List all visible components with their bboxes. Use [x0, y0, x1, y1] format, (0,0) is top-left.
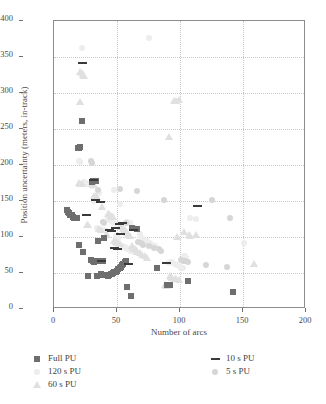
- y-tick-label: 150: [0, 193, 13, 203]
- data-point: [133, 248, 141, 255]
- data-point: [120, 261, 126, 267]
- data-point: [140, 242, 146, 248]
- gridline-horizontal: [54, 93, 304, 94]
- data-point: [77, 144, 83, 150]
- legend-column-right: 10 s PU5 s PU: [208, 352, 255, 378]
- data-point: [88, 158, 94, 164]
- data-point: [76, 145, 82, 151]
- y-tick-label: 250: [0, 121, 13, 131]
- x-tick-mark: [305, 308, 306, 312]
- x-tick-mark: [116, 308, 117, 312]
- data-point: [166, 282, 172, 288]
- legend-item[interactable]: 10 s PU: [208, 352, 255, 365]
- data-point: [151, 245, 157, 251]
- data-point: [175, 276, 183, 283]
- data-point: [97, 226, 105, 233]
- legend: Full PU120 s PU60 s PU 10 s PU5 s PU: [30, 352, 310, 396]
- data-point: [78, 69, 86, 76]
- data-point: [124, 284, 130, 290]
- data-point: [128, 293, 134, 299]
- data-point: [193, 216, 199, 222]
- legend-item[interactable]: Full PU: [30, 352, 81, 365]
- legend-label: 5 s PU: [226, 366, 250, 376]
- x-tick-label: 150: [236, 315, 249, 325]
- legend-item[interactable]: 60 s PU: [30, 378, 81, 391]
- data-point: [162, 282, 170, 289]
- data-point: [122, 259, 128, 265]
- legend-column-left: Full PU120 s PU60 s PU: [30, 352, 81, 391]
- data-point: [96, 258, 102, 264]
- data-point: [162, 262, 171, 264]
- data-point: [86, 181, 92, 187]
- data-point: [110, 219, 116, 225]
- x-tick-label: 100: [173, 315, 186, 325]
- gridline-vertical: [243, 21, 244, 307]
- data-point: [127, 220, 133, 226]
- data-point: [230, 289, 236, 295]
- data-point: [89, 179, 95, 185]
- data-point: [93, 193, 101, 200]
- data-point: [161, 281, 169, 288]
- data-point: [156, 246, 162, 252]
- data-point: [83, 221, 91, 228]
- data-point: [181, 253, 187, 259]
- data-point: [185, 259, 191, 265]
- data-point: [134, 188, 140, 194]
- data-point: [250, 260, 258, 267]
- gridline-horizontal: [54, 237, 304, 238]
- data-point: [119, 225, 127, 232]
- data-point: [123, 229, 131, 236]
- data-point: [144, 238, 150, 244]
- data-point: [78, 62, 87, 64]
- gridline-horizontal: [54, 201, 304, 202]
- data-point: [107, 230, 116, 232]
- data-point: [108, 217, 114, 223]
- legend-marker-icon: [30, 365, 44, 378]
- y-tick-label: 400: [0, 13, 13, 23]
- data-point: [100, 219, 106, 225]
- data-point: [112, 238, 120, 245]
- gridline-horizontal: [54, 57, 304, 58]
- data-point: [141, 252, 149, 259]
- data-point: [94, 225, 100, 231]
- data-point: [70, 214, 76, 220]
- data-point: [95, 187, 101, 193]
- data-point: [132, 246, 140, 253]
- data-point: [123, 258, 129, 264]
- data-point: [79, 45, 85, 51]
- data-point: [95, 238, 101, 244]
- scatter-chart-figure: 050100150200250300350400 050100150200 Nu…: [0, 0, 326, 404]
- legend-item[interactable]: 5 s PU: [208, 365, 255, 378]
- legend-marker-icon: [208, 365, 222, 378]
- data-point: [80, 72, 88, 79]
- data-point: [135, 239, 141, 245]
- data-point: [171, 275, 179, 282]
- data-point: [105, 210, 113, 217]
- y-tick-label: 350: [0, 49, 13, 59]
- x-tick-mark: [242, 308, 243, 312]
- legend-label: Full PU: [48, 353, 76, 363]
- data-point: [122, 244, 128, 250]
- data-point: [166, 260, 172, 266]
- data-point: [114, 239, 122, 246]
- legend-label: 10 s PU: [226, 353, 255, 363]
- data-point: [183, 255, 189, 261]
- data-point: [193, 205, 202, 207]
- data-point: [118, 264, 124, 270]
- data-point: [124, 246, 130, 252]
- data-point: [95, 226, 101, 232]
- data-point: [69, 212, 75, 218]
- data-point: [88, 257, 94, 263]
- data-point: [108, 213, 116, 220]
- x-tick-label: 50: [112, 315, 121, 325]
- data-point: [93, 178, 99, 184]
- data-point: [227, 215, 233, 221]
- data-point: [101, 227, 107, 233]
- data-point: [149, 242, 155, 248]
- data-point: [129, 225, 135, 231]
- data-point: [83, 180, 89, 186]
- data-point: [98, 203, 106, 210]
- legend-item[interactable]: 120 s PU: [30, 365, 81, 378]
- data-point: [130, 225, 136, 231]
- data-point: [71, 215, 77, 221]
